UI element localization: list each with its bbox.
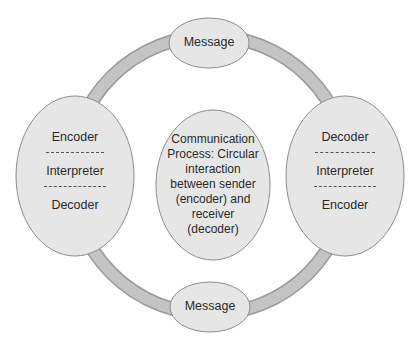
center-line-4: between sender (160, 177, 266, 192)
right-node-line-1: Decoder (290, 130, 400, 148)
center-line-6: receiver (160, 207, 266, 222)
right-node-content: Decoder Interpreter Encoder (290, 130, 400, 216)
center-line-7: (decoder) (160, 222, 266, 237)
left-separator-1 (46, 152, 104, 153)
center-node-text: Communication Process: Circular interact… (160, 132, 266, 237)
left-node-line-3: Decoder (20, 198, 130, 216)
left-node-line-2: Interpreter (20, 164, 130, 182)
center-line-1: Communication (160, 132, 266, 147)
right-separator-1 (315, 152, 375, 153)
center-line-5: (encoder) and (160, 192, 266, 207)
center-line-3: interaction (160, 162, 266, 177)
right-node-line-2: Interpreter (290, 164, 400, 182)
bottom-message-label: Message (170, 299, 250, 313)
center-line-2: Process: Circular (160, 147, 266, 162)
left-node-line-1: Encoder (20, 130, 130, 148)
left-node-content: Encoder Interpreter Decoder (20, 130, 130, 216)
left-separator-2 (44, 186, 106, 187)
right-node-line-3: Encoder (290, 198, 400, 216)
right-separator-2 (314, 186, 376, 187)
top-message-label: Message (169, 35, 249, 49)
